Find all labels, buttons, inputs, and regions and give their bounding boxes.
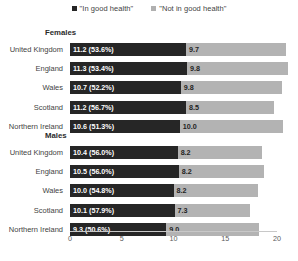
bar-value-in-good-health: 11.2 (56.7%) [73,103,114,112]
bar-value-not-in-good-health: 8.2 [181,148,191,157]
bar-segment-not-in-good-health: 9.8 [181,81,282,94]
x-tick-label: 10 [170,234,178,243]
bar-value-not-in-good-health: 9.7 [189,45,199,54]
bar-segment-in-good-health: 11.3 (53.4%) [70,62,187,75]
plot-area: United Kingdom11.2 (53.6%)9.7England11.3… [0,0,298,261]
bar-segment-in-good-health: 10.1 (57.9%) [70,204,175,217]
x-tick-label: 5 [120,234,124,243]
row-label-scotland: Scotland [0,101,66,114]
stacked-bar: 10.4 (56.0%)8.2 [70,146,263,159]
stacked-bar: 10.0 (54.8%)8.2 [70,184,258,197]
bar-value-not-in-good-health: 9.0 [169,225,179,234]
stacked-bar: 10.1 (57.9%)7.3 [70,204,250,217]
bar-segment-in-good-health: 10.5 (56.0%) [70,165,179,178]
stacked-bar: 11.2 (56.7%)8.5 [70,101,274,114]
bar-segment-in-good-health: 10.0 (54.8%) [70,184,174,197]
bar-value-in-good-health: 9.3 (50.6%) [73,225,110,234]
x-tick-label: 0 [68,234,72,243]
bar-value-not-in-good-health: 9.8 [184,83,194,92]
row-label-united-kingdom: United Kingdom [0,146,66,159]
row-label-wales: Wales [0,184,66,197]
bar-segment-not-in-good-health: 9.8 [187,62,288,75]
bar-value-not-in-good-health: 8.5 [189,103,199,112]
x-tick-label: 15 [221,234,229,243]
bar-segment-not-in-good-health: 8.5 [186,101,274,114]
stacked-bar: 10.6 (51.3%)10.0 [70,120,283,133]
row-label-scotland: Scotland [0,204,66,217]
x-tick-label: 20 [273,234,281,243]
bar-segment-not-in-good-health: 7.3 [175,204,251,217]
bar-value-not-in-good-health: 8.2 [177,186,187,195]
bar-segment-in-good-health: 10.7 (52.2%) [70,81,181,94]
x-axis-ticks: 05101520 [0,234,298,246]
bar-value-not-in-good-health: 9.8 [190,64,200,73]
stacked-bar: 10.7 (52.2%)9.8 [70,81,282,94]
bar-value-not-in-good-health: 10.0 [183,122,197,131]
stacked-bar: 10.5 (56.0%)8.2 [70,165,264,178]
row-label-wales: Wales [0,81,66,94]
row-label-northern-ireland: Northern Ireland [0,120,66,133]
bar-value-not-in-good-health: 7.3 [178,206,188,215]
bar-segment-not-in-good-health: 8.2 [179,165,264,178]
x-axis-line [70,231,277,232]
bar-value-in-good-health: 10.1 (57.9%) [73,206,114,215]
bar-segment-not-in-good-health: 8.2 [174,184,259,197]
row-label-united-kingdom: United Kingdom [0,43,66,56]
bar-value-in-good-health: 11.3 (53.4%) [73,64,114,73]
bar-value-in-good-health: 10.0 (54.8%) [73,186,114,195]
bar-value-in-good-health: 10.7 (52.2%) [73,83,114,92]
chart-container: "In good health" "Not in good health" Fe… [0,0,298,261]
bar-segment-not-in-good-health: 10.0 [180,120,284,133]
bar-value-in-good-health: 10.5 (56.0%) [73,167,114,176]
row-label-england: England [0,62,66,75]
row-label-england: England [0,165,66,178]
bar-segment-in-good-health: 11.2 (53.6%) [70,43,186,56]
bar-segment-not-in-good-health: 8.2 [178,146,263,159]
bar-segment-in-good-health: 10.4 (56.0%) [70,146,178,159]
bar-segment-in-good-health: 11.2 (56.7%) [70,101,186,114]
bar-value-in-good-health: 10.4 (56.0%) [73,148,114,157]
stacked-bar: 11.2 (53.6%)9.7 [70,43,286,56]
bar-segment-in-good-health: 10.6 (51.3%) [70,120,180,133]
bar-value-not-in-good-health: 8.2 [182,167,192,176]
bar-value-in-good-health: 10.6 (51.3%) [73,122,114,131]
bar-value-in-good-health: 11.2 (53.6%) [73,45,114,54]
stacked-bar: 11.3 (53.4%)9.8 [70,62,288,75]
bar-segment-not-in-good-health: 9.7 [186,43,286,56]
